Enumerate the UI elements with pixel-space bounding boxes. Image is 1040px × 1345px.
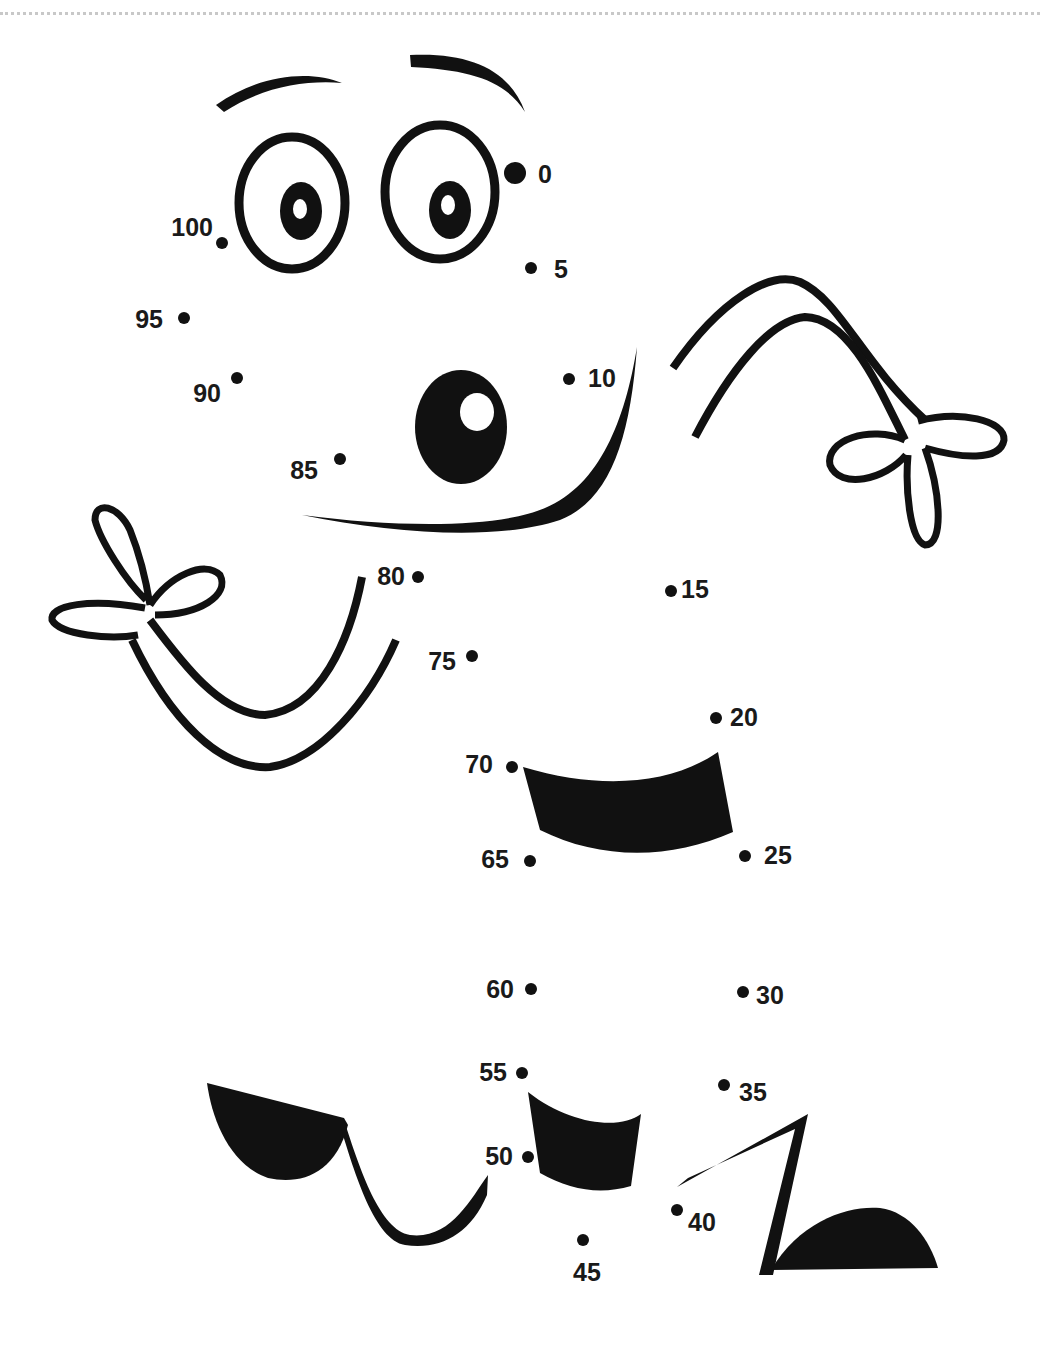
dot-number-label: 20 <box>730 703 758 731</box>
dot-number-label: 90 <box>193 379 221 407</box>
dot-number-label: 65 <box>481 845 509 873</box>
dot-marker <box>216 237 228 249</box>
dot-marker <box>665 585 677 597</box>
dot-marker <box>412 571 424 583</box>
dot-number-label: 10 <box>588 364 616 392</box>
dot-100: 100 <box>171 213 228 249</box>
dot-marker <box>466 650 478 662</box>
dot-number-label: 95 <box>135 305 163 333</box>
dot-50: 50 <box>485 1142 534 1170</box>
left-foot <box>207 1083 348 1180</box>
dot-30: 30 <box>737 981 784 1009</box>
dot-90: 90 <box>193 372 243 407</box>
dot-marker <box>522 1151 534 1163</box>
dot-marker <box>231 372 243 384</box>
left-eye <box>239 137 345 269</box>
dot-number-label: 35 <box>739 1078 767 1106</box>
left-hand <box>52 508 222 637</box>
dot-number-label: 30 <box>756 981 784 1009</box>
dot-to-dot-canvas: 0510152025303540455055606570758085909510… <box>0 0 1040 1345</box>
left-arm <box>150 577 362 715</box>
dot-marker <box>525 983 537 995</box>
dot-15: 15 <box>665 575 709 603</box>
dot-marker <box>516 1067 528 1079</box>
dot-number-label: 45 <box>573 1258 601 1286</box>
dot-85: 85 <box>290 453 346 484</box>
right-arm-inner <box>695 317 905 440</box>
dot-70: 70 <box>465 750 518 778</box>
dot-marker <box>334 453 346 465</box>
dot-75: 75 <box>428 647 478 675</box>
lower-body-stripe <box>528 1092 641 1190</box>
right-foot <box>771 1208 938 1270</box>
dot-5: 5 <box>525 255 568 283</box>
dot-25: 25 <box>739 841 792 869</box>
dot-marker <box>178 312 190 324</box>
dot-marker <box>506 761 518 773</box>
dot-marker <box>718 1079 730 1091</box>
dot-number-label: 50 <box>485 1142 513 1170</box>
dot-marker <box>737 986 749 998</box>
dot-0: 0 <box>504 160 552 188</box>
dot-55: 55 <box>479 1058 528 1086</box>
dot-marker <box>504 162 526 184</box>
dot-marker <box>563 373 575 385</box>
dot-number-label: 60 <box>486 975 514 1003</box>
dot-number-label: 100 <box>171 213 213 241</box>
right-eyebrow <box>410 55 525 112</box>
dot-45: 45 <box>573 1234 601 1286</box>
left-eyebrow <box>216 76 342 112</box>
dot-20: 20 <box>710 703 758 731</box>
dot-number-label: 15 <box>681 575 709 603</box>
nose <box>415 370 507 484</box>
dot-40: 40 <box>671 1204 716 1236</box>
dot-number-label: 0 <box>538 160 552 188</box>
dot-number-label: 55 <box>479 1058 507 1086</box>
dot-number-label: 80 <box>377 562 405 590</box>
dot-10: 10 <box>563 364 616 392</box>
dot-95: 95 <box>135 305 190 333</box>
dot-marker <box>577 1234 589 1246</box>
dot-marker <box>671 1204 683 1216</box>
dot-number-label: 5 <box>554 255 568 283</box>
dot-35: 35 <box>718 1078 767 1106</box>
dot-number-label: 25 <box>764 841 792 869</box>
dot-marker <box>739 850 751 862</box>
right-eye <box>385 125 495 259</box>
upper-body-stripe <box>523 752 733 853</box>
dot-number-label: 75 <box>428 647 456 675</box>
dot-number-label: 40 <box>688 1208 716 1236</box>
dot-marker <box>524 855 536 867</box>
left-arm-inner <box>132 640 396 767</box>
dot-65: 65 <box>481 845 536 873</box>
dot-60: 60 <box>486 975 537 1003</box>
dot-marker <box>525 262 537 274</box>
right-hand <box>830 416 1004 545</box>
dot-number-label: 85 <box>290 456 318 484</box>
left-leg-curve <box>340 1120 488 1246</box>
dot-80: 80 <box>377 562 424 590</box>
dot-number-label: 70 <box>465 750 493 778</box>
dot-marker <box>710 712 722 724</box>
